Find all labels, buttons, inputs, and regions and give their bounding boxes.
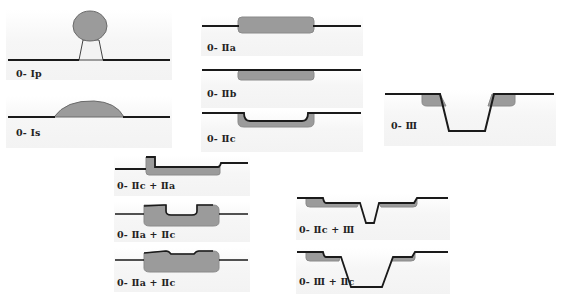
panel-0-iii-iic: 0- Ⅲ + Ⅱc (296, 248, 450, 294)
sessile-lesion-diagram (6, 96, 172, 148)
panel-0-iic-iia: 0- Ⅱc + Ⅱa (114, 156, 250, 196)
excavated-plus-depressed-lesion-diagram (296, 248, 450, 294)
panel-0-is: 0- Ⅰs (6, 96, 172, 148)
label-0-iic-iia: 0- Ⅱc + Ⅱa (117, 180, 175, 191)
label-0-is: 0- Ⅰs (16, 127, 41, 138)
label-0-iib: 0- Ⅱb (207, 88, 237, 99)
panel-0-iia: 0- Ⅱa (201, 16, 363, 56)
label-0-iia-iic-2: 0- Ⅱa + Ⅱc (117, 277, 175, 288)
slightly-depressed-lesion-diagram (201, 110, 363, 152)
panel-0-iii: 0- Ⅲ (384, 90, 556, 146)
panel-0-ip: 0- Ⅰp (6, 10, 172, 80)
panel-0-iia-iic-1: 0- Ⅱa + Ⅱc (114, 202, 250, 242)
panel-0-iic: 0- Ⅱc (201, 110, 363, 152)
panel-0-iic-iii: 0- Ⅱc + Ⅲ (296, 194, 450, 240)
excavated-lesion-diagram (384, 90, 556, 146)
label-0-ip: 0- Ⅰp (16, 68, 42, 79)
label-0-iic: 0- Ⅱc (207, 133, 236, 144)
label-0-iii: 0- Ⅲ (391, 120, 417, 131)
label-0-iii-iic: 0- Ⅲ + Ⅱc (299, 276, 355, 287)
label-0-iia-iic-1: 0- Ⅱa + Ⅱc (117, 229, 175, 240)
label-0-iia: 0- Ⅱa (207, 42, 236, 53)
panel-0-iia-iic-2: 0- Ⅱa + Ⅱc (114, 248, 250, 292)
label-0-iic-iii: 0- Ⅱc + Ⅲ (299, 224, 355, 235)
panel-0-iib: 0- Ⅱb (201, 68, 363, 108)
